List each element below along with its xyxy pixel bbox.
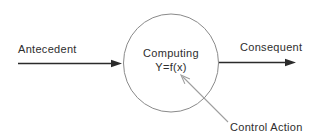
consequent-label: Consequent (240, 41, 302, 53)
consequent-arrowhead-icon (285, 59, 296, 66)
antecedent-label: Antecedent (18, 43, 77, 55)
control-action-label: Control Action (230, 121, 303, 133)
process-node-label: Computing Y=f(x) (121, 46, 221, 74)
diagram-canvas: Antecedent Consequent Computing Y=f(x) C… (0, 0, 313, 140)
process-node-line1: Computing (121, 46, 221, 60)
process-node-line2: Y=f(x) (121, 60, 221, 74)
